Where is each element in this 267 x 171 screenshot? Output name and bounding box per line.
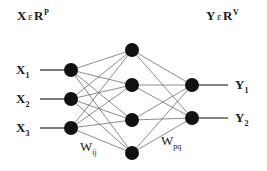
output-node-label-2-sub: 2 (244, 119, 248, 128)
output-space-set: R (223, 8, 233, 23)
input-node-label-3-base: X (16, 120, 25, 135)
hidden-node (125, 43, 139, 57)
edge-input-hidden (71, 50, 132, 70)
input-node (64, 121, 78, 135)
input-node-label-1-sub: 1 (25, 71, 29, 80)
edge-hidden-output (132, 50, 192, 118)
input-node-label-1-base: X (16, 62, 25, 77)
element-of-icon: ε (27, 10, 34, 22)
edge-hidden-output (132, 50, 192, 85)
weight-label-hidden-output-base: W (161, 133, 173, 148)
output-space-label: YεRV (206, 9, 239, 22)
input-node-label-2-base: X (16, 91, 25, 106)
input-node-label-1: X1 (16, 63, 29, 80)
network-diagram-figure: XεRP YεRV X1 X2 X3 Y1 Y2 Wij Wpq (0, 0, 267, 171)
input-node (64, 92, 78, 106)
input-node-label-3-sub: 3 (25, 129, 29, 138)
input-node-label-2-sub: 2 (25, 100, 29, 109)
weight-label-hidden-output-sub: pq (173, 142, 181, 151)
output-node-label-1: Y1 (235, 78, 248, 95)
weight-label-input-hidden-base: W (80, 139, 92, 154)
weight-label-input-hidden: Wij (80, 140, 97, 157)
input-node-label-2: X2 (16, 92, 29, 109)
input-node-label-3: X3 (16, 121, 29, 138)
edges-input-to-hidden (71, 50, 132, 153)
output-node-label-1-base: Y (235, 77, 244, 92)
output-node (185, 78, 199, 92)
network-graph (0, 0, 267, 171)
output-space-exponent: V (233, 8, 239, 17)
weight-label-hidden-output: Wpq (161, 134, 181, 151)
hidden-node (125, 113, 139, 127)
element-of-icon: ε (216, 10, 223, 22)
output-space-variable: Y (206, 8, 216, 23)
input-space-set: R (34, 8, 44, 23)
hidden-node (125, 146, 139, 160)
input-space-exponent: P (44, 8, 49, 17)
output-node-label-1-sub: 1 (244, 86, 248, 95)
output-node-label-2-base: Y (235, 110, 244, 125)
edge-input-hidden (71, 50, 132, 128)
hidden-node (125, 78, 139, 92)
input-space-label: XεRP (17, 9, 49, 22)
output-stub-lines (192, 85, 228, 118)
input-space-variable: X (17, 8, 27, 23)
output-node-label-2: Y2 (235, 111, 248, 128)
input-node (64, 63, 78, 77)
output-node (185, 111, 199, 125)
weight-label-input-hidden-sub: ij (92, 148, 96, 157)
